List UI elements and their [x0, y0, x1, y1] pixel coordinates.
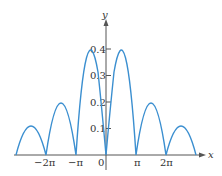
- x-tick-label: 0: [98, 157, 104, 168]
- chart: x y 0.4 0.3 0.2 0.1 −2π −π 0 π 2π: [0, 0, 222, 176]
- y-tick-label: 0.4: [90, 44, 106, 55]
- y-axis-label: y: [101, 9, 108, 20]
- y-ticks: [106, 49, 111, 129]
- x-axis-label: x: [208, 149, 214, 160]
- x-tick-label: −2π: [34, 157, 56, 168]
- x-tick-label: 2π: [160, 157, 173, 168]
- x-axis-arrow-icon: [199, 153, 206, 158]
- x-tick-label: −π: [68, 157, 83, 168]
- y-axis-arrow-icon: [104, 19, 109, 26]
- y-tick-label: 0.2: [90, 97, 106, 108]
- x-tick-label: π: [134, 157, 141, 168]
